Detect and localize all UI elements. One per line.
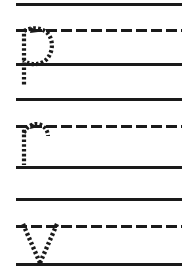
trace-letter-p	[18, 26, 74, 92]
letter-v-left-stroke	[23, 224, 40, 263]
rule-line-baseline-3	[16, 263, 182, 266]
rule-line-baseline-1	[16, 63, 182, 66]
rule-line-midline-3	[16, 225, 182, 228]
letter-v-right-stroke	[40, 224, 57, 263]
rule-line-topline-1	[16, 3, 182, 6]
rule-line-midline-2	[16, 125, 182, 128]
handwriting-worksheet	[0, 0, 194, 272]
rule-line-topline-2	[16, 98, 182, 101]
letter-p-bowl	[24, 28, 52, 64]
rule-line-midline-1	[16, 29, 182, 32]
rule-line-topline-3	[16, 198, 182, 201]
rule-line-baseline-2	[16, 166, 182, 169]
